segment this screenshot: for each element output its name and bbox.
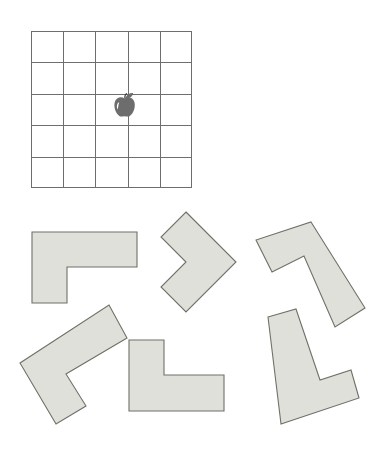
l-shape-piece-5[interactable] (129, 340, 224, 411)
l-shape-piece-1[interactable] (32, 232, 137, 303)
l-shape-piece-6[interactable] (268, 309, 359, 424)
l-shape-piece-4[interactable] (20, 305, 127, 424)
grid-container (31, 31, 192, 188)
grid-border (32, 32, 192, 188)
shapes-container (0, 200, 379, 452)
grid-svg (31, 31, 192, 188)
shapes-svg (0, 200, 379, 452)
puzzle-canvas: Grid and Shapes Puzzle apple L-shape pie… (0, 0, 379, 452)
l-shape-piece-2[interactable] (161, 212, 236, 312)
l-shape-piece-3[interactable] (256, 222, 365, 327)
apple-icon (114, 93, 134, 116)
